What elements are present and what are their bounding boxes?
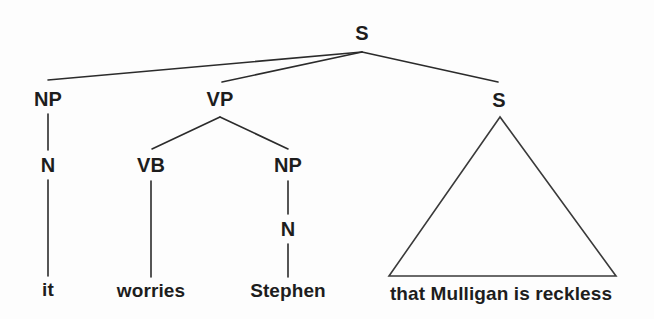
edge-vp-to-vb xyxy=(152,117,220,149)
edge-s-to-s-embedded xyxy=(362,52,498,82)
node-vb: VB xyxy=(137,155,165,175)
syntax-tree-figure: S NP N it VP VB worries NP N Stephen S t… xyxy=(0,0,654,319)
leaf-embedded-clause: that Mulligan is reckless xyxy=(390,284,612,303)
embedded-clause-triangle xyxy=(389,117,616,276)
node-n-subject: N xyxy=(41,155,56,175)
tree-edges-layer xyxy=(0,0,654,319)
edge-vp-to-np xyxy=(220,117,288,149)
leaf-worries: worries xyxy=(117,281,185,300)
node-n-object: N xyxy=(281,219,296,239)
leaf-stephen: Stephen xyxy=(250,281,326,300)
node-s-embedded: S xyxy=(492,90,506,110)
leaf-it: it xyxy=(42,280,54,299)
node-root-s: S xyxy=(355,23,369,43)
node-np-object: NP xyxy=(274,155,302,175)
edge-s-to-np xyxy=(48,52,362,80)
node-vp: VP xyxy=(206,89,233,109)
edge-s-to-vp xyxy=(222,52,362,82)
node-np-subject: NP xyxy=(34,89,62,109)
